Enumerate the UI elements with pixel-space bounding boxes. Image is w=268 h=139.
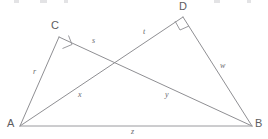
vertex-label-c: C bbox=[51, 20, 59, 31]
diagram-canvas bbox=[0, 0, 268, 139]
right-angle-marker-c bbox=[63, 36, 73, 49]
segment-label-z: z bbox=[131, 128, 134, 136]
segment-x-t-line bbox=[20, 17, 183, 126]
segment-label-r: r bbox=[33, 68, 36, 76]
vertex-label-a: A bbox=[7, 118, 14, 129]
segment-label-x: x bbox=[78, 91, 82, 99]
segment-label-s: s bbox=[92, 37, 95, 45]
geometry-figure: A B C D r s t w x y z bbox=[0, 0, 268, 139]
vertex-label-d: D bbox=[179, 1, 187, 12]
vertex-label-b: B bbox=[255, 118, 262, 129]
segment-label-t: t bbox=[143, 28, 145, 36]
segment-label-w: w bbox=[220, 62, 225, 70]
segment-label-y: y bbox=[165, 91, 169, 99]
segment-s-y-line bbox=[59, 37, 252, 126]
